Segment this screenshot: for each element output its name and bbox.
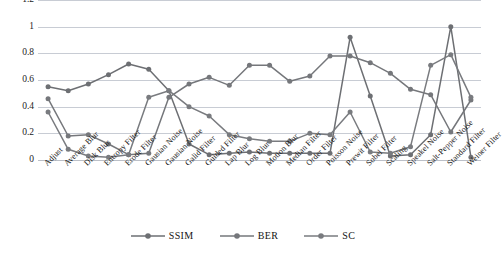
data-point (166, 95, 171, 100)
data-point (348, 54, 353, 59)
legend-swatch (220, 231, 254, 241)
legend-label: SC (342, 231, 355, 241)
data-point (66, 88, 71, 93)
data-point (146, 67, 151, 72)
y-axis-tick-label: 0.8 (22, 48, 34, 58)
gridlines-and-series (38, 0, 481, 160)
y-axis-tick-label: 0.4 (22, 102, 34, 112)
legend-item-ssim[interactable]: SSIM (131, 231, 194, 241)
series-line (48, 55, 471, 158)
data-point (247, 136, 252, 141)
data-point (408, 144, 413, 149)
data-point (46, 84, 51, 89)
y-axis-tick-label: 0.6 (22, 75, 34, 85)
data-point (408, 87, 413, 92)
data-point (388, 71, 393, 76)
data-point (187, 82, 192, 87)
legend-swatch (131, 231, 165, 241)
legend-label: SSIM (169, 231, 194, 241)
data-point (428, 92, 433, 97)
data-point (46, 96, 51, 101)
data-point (327, 54, 332, 59)
data-point (368, 60, 373, 65)
data-point (46, 110, 51, 115)
y-axis-tick-label: 1 (29, 22, 34, 32)
data-point (66, 147, 71, 152)
y-axis: 00.20.40.60.811.2 (0, 0, 38, 160)
data-point (468, 95, 473, 100)
y-axis-tick-label: 1.2 (22, 0, 34, 5)
data-point (368, 94, 373, 99)
y-axis-tick-label: 0.2 (22, 128, 34, 138)
data-point (227, 83, 232, 88)
series-line (48, 27, 471, 158)
x-axis: AdjustAverage BlurDisk BlurEntropy Filte… (38, 160, 481, 218)
legend-swatch (304, 231, 338, 241)
data-point (106, 72, 111, 77)
legend-item-sc[interactable]: SC (304, 231, 355, 241)
y-axis-tick-label: 0 (29, 155, 34, 165)
legend-label: BER (258, 231, 279, 241)
data-point (448, 24, 453, 29)
data-point (348, 35, 353, 40)
data-point (166, 88, 171, 93)
chart-legend: SSIMBERSC (0, 224, 486, 248)
data-point (66, 134, 71, 139)
data-point (287, 79, 292, 84)
legend-item-ber[interactable]: BER (220, 231, 279, 241)
series-layer (38, 0, 481, 160)
data-point (247, 63, 252, 68)
data-point (187, 104, 192, 109)
data-point (428, 63, 433, 68)
data-point (448, 52, 453, 57)
data-point (267, 63, 272, 68)
data-point (146, 95, 151, 100)
data-point (348, 110, 353, 115)
data-point (207, 75, 212, 80)
data-point (207, 114, 212, 119)
data-point (86, 82, 91, 87)
data-point (126, 62, 131, 67)
data-point (307, 74, 312, 79)
